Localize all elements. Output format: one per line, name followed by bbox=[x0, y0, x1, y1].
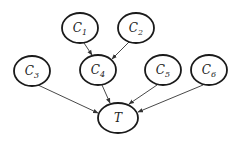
node-c1: C1 bbox=[62, 13, 98, 43]
edge-c4-t bbox=[102, 85, 110, 103]
svg-text:T: T bbox=[114, 111, 123, 125]
node-c3: C3 bbox=[14, 56, 50, 86]
node-t: T bbox=[98, 103, 138, 133]
edge-c2-c4 bbox=[112, 42, 129, 59]
edge-c5-t bbox=[129, 85, 157, 104]
node-c2: C2 bbox=[118, 13, 154, 43]
node-c5: C5 bbox=[145, 55, 181, 85]
edge-c1-c4 bbox=[84, 43, 92, 55]
node-c4: C4 bbox=[80, 55, 116, 85]
edge-c6-t bbox=[138, 85, 203, 112]
node-c6: C6 bbox=[191, 55, 227, 85]
diagram-canvas: C1 C2 C3 C4 C5 C6 T bbox=[0, 0, 243, 146]
edge-c3-t bbox=[38, 85, 98, 113]
